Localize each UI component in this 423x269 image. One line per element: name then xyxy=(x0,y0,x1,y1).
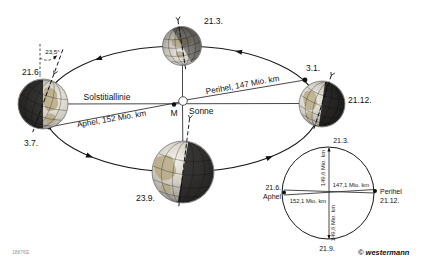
label-december-date: 21.12. xyxy=(348,95,372,105)
circle-label-september: 21.9. xyxy=(319,245,335,252)
orbit-arrow-bottom-left xyxy=(86,153,94,160)
sun-icon xyxy=(179,97,188,106)
perihel-end-dot xyxy=(373,189,377,193)
aphel-end-dot xyxy=(282,191,286,195)
distance-circle xyxy=(282,147,374,239)
circle-label-december: 21.12. xyxy=(380,197,400,204)
label-january-date: 3.1. xyxy=(306,63,320,73)
axis-north-mark xyxy=(330,72,335,76)
tilt-arrowhead xyxy=(52,54,58,60)
label-june-date: 21.6. xyxy=(22,67,41,77)
label-solstice-line: Solstitiallinie xyxy=(84,92,131,102)
earth-globe-june xyxy=(11,49,75,136)
figure-code: 18876E xyxy=(12,249,30,255)
perihelion-point xyxy=(303,78,308,83)
sun xyxy=(172,97,188,107)
earth-globe-march xyxy=(160,17,208,72)
figure-canvas: 23,5° 21.6. 21.3. 3.1. 21.12. 3.7. 23.9.… xyxy=(0,0,423,269)
orbit-arrow-top-left xyxy=(94,55,102,62)
orbit-diagram: 23,5° 21.6. 21.3. 3.1. 21.12. 3.7. 23.9.… xyxy=(11,16,371,209)
circle-label-aphel-distance: 152,1 Mio. km xyxy=(290,198,327,204)
label-september-date: 23.9. xyxy=(136,193,155,203)
circle-label-radius-top: 149,6 Mio. km xyxy=(320,150,326,187)
distance-circle-diagram: 21.3. 21.6. Aphel Perihel 21.12. 21.9. 1… xyxy=(263,137,402,252)
tilt-angle-label: 23,5° xyxy=(45,48,60,55)
publisher-credit: © westermann xyxy=(358,248,410,257)
label-midpoint: M xyxy=(170,108,177,118)
orbit-arrow-bottom-right xyxy=(266,154,274,161)
circle-label-perihel-distance: 147,1 Mio. km xyxy=(333,182,370,188)
label-perihelion-line: Perihel, 147 Mio. km xyxy=(205,74,280,96)
earth-orbit-figure: 23,5° 21.6. 21.3. 3.1. 21.12. 3.7. 23.9.… xyxy=(0,0,423,269)
axis-north-mark xyxy=(176,17,180,21)
label-march-date: 21.3. xyxy=(204,16,223,26)
orbit-arrow-top-right xyxy=(235,48,243,54)
circle-label-perihel-role: Perihel xyxy=(380,188,402,195)
arrow-up xyxy=(327,148,330,152)
circle-label-june-role: Aphel xyxy=(263,193,281,201)
ellipse-midpoint-dot xyxy=(172,102,176,106)
label-aphelion-line: Aphel, 152 Mio. km xyxy=(76,109,147,129)
circle-label-march: 21.3. xyxy=(333,137,349,144)
earth-globe-september xyxy=(149,115,219,209)
label-sun: Sonne xyxy=(189,106,214,116)
night-shadow xyxy=(19,80,44,129)
circle-label-june: 21.6. xyxy=(265,184,281,191)
label-july-date: 3.7. xyxy=(24,138,38,148)
circle-label-radius-bottom: 149,6 Mio. km xyxy=(330,205,336,242)
